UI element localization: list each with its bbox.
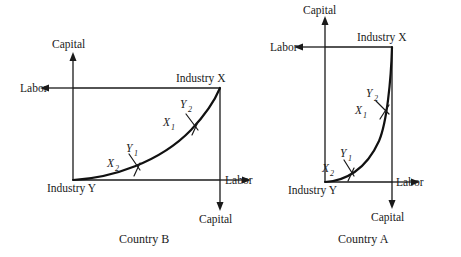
panel-country-b: Labor Capital Labor Capital Industry X I…: [20, 38, 253, 246]
contract-curve-b: [73, 88, 220, 180]
panel-country-a: Labor Capital Labor Capital Industry X I…: [270, 4, 424, 246]
point-label-upper-a: X 1 Y 2: [354, 87, 378, 120]
point-sub-y2-b: 2: [188, 105, 192, 114]
point-sub-x1-a: 1: [363, 111, 367, 120]
point-label-upper-b: X 1 Y 2: [162, 98, 192, 132]
point-label-x2-b: X: [106, 157, 115, 169]
point-label-y1-b: Y: [126, 142, 134, 154]
point-label-x2-a: X: [321, 162, 330, 174]
axis-label-capital-topleft-b: Capital: [52, 38, 85, 51]
axis-label-labor-bottomright-a: Labor: [396, 176, 424, 188]
caption-country-a: Country A: [338, 232, 389, 246]
axis-label-capital-topleft-a: Capital: [303, 4, 336, 17]
point-sub-y2-a: 2: [374, 94, 378, 103]
point-sub-y1-a: 1: [348, 154, 352, 163]
edgeworth-box-figure: Labor Capital Labor Capital Industry X I…: [0, 0, 461, 257]
point-label-x1-b: X: [162, 116, 171, 128]
axis-label-labor-topleft-a: Labor: [270, 41, 298, 53]
capital-axis-arrow-down-icon-b: [217, 202, 224, 211]
point-label-lower-b: X 2 Y 1: [106, 142, 138, 173]
point-sub-x1-b: 1: [171, 123, 175, 132]
capital-axis-arrow-down-icon-a: [389, 200, 396, 209]
capital-axis-arrow-up-icon-b: [70, 52, 77, 61]
point-label-y2-a: Y: [366, 87, 374, 99]
point-label-y2-b: Y: [180, 98, 188, 110]
point-label-y1-a: Y: [340, 147, 348, 159]
caption-country-b: Country B: [119, 232, 169, 246]
corner-label-industry-y-a: Industry Y: [288, 184, 338, 197]
corner-label-industry-x-b: Industry X: [176, 72, 226, 85]
corner-label-industry-x-a: Industry X: [357, 31, 407, 44]
corner-label-industry-y-b: Industry Y: [47, 182, 97, 195]
point-sub-y1-b: 1: [134, 149, 138, 158]
figure-container: Labor Capital Labor Capital Industry X I…: [0, 0, 461, 257]
capital-axis-arrow-up-icon-a: [322, 16, 329, 25]
point-sub-x2-a: 2: [330, 169, 334, 178]
point-sub-x2-b: 2: [115, 164, 119, 173]
point-label-x1-a: X: [354, 104, 363, 116]
axis-label-capital-bottomright-a: Capital: [371, 211, 404, 224]
axis-label-capital-bottomright-b: Capital: [199, 213, 232, 226]
axis-label-labor-bottomright-b: Labor: [225, 174, 253, 186]
axis-label-labor-topleft-b: Labor: [20, 82, 48, 94]
